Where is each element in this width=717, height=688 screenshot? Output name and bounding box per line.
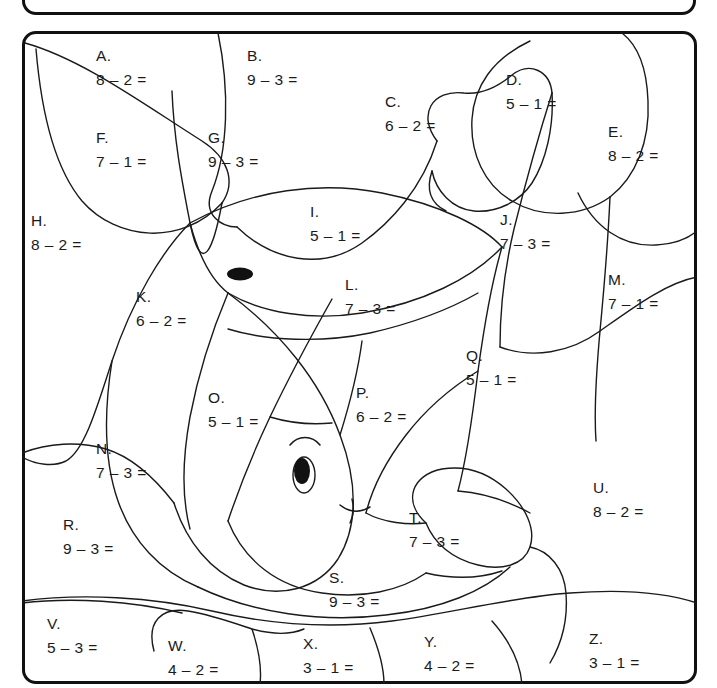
eye-pupil bbox=[294, 458, 310, 484]
line-o-outline bbox=[174, 293, 353, 591]
line-k-o bbox=[184, 293, 228, 529]
line-p-left bbox=[340, 341, 362, 435]
line-y-z bbox=[492, 621, 522, 684]
instruction-box bbox=[22, 0, 696, 15]
line-q-bottom bbox=[366, 513, 426, 524]
line-c-top bbox=[428, 69, 552, 141]
worksheet-page: A.8 – 2 =B.9 – 3 =C.6 – 2 =D.5 – 1 =E.8 … bbox=[0, 0, 717, 688]
line-i-top bbox=[190, 188, 502, 247]
line-body-bottom2 bbox=[228, 521, 426, 595]
line-t-right bbox=[530, 547, 566, 663]
line-x-y bbox=[370, 628, 384, 684]
line-v-w bbox=[152, 610, 304, 651]
line-i-bottom bbox=[228, 247, 502, 316]
line-t-outline bbox=[413, 468, 532, 567]
line-b-bottom bbox=[237, 141, 437, 259]
mouth bbox=[340, 505, 370, 511]
fish-line-art bbox=[22, 31, 697, 684]
eyebrow bbox=[290, 438, 320, 446]
line-l-bottom bbox=[228, 293, 478, 339]
line-ab-divider bbox=[209, 33, 237, 227]
line-fin-upper bbox=[270, 417, 332, 424]
line-d-right bbox=[610, 33, 648, 197]
line-body-bottom bbox=[198, 567, 510, 618]
dorsal-spot bbox=[227, 268, 253, 281]
line-l-left bbox=[228, 299, 332, 521]
line-a-arc bbox=[36, 49, 222, 233]
line-w-x bbox=[252, 629, 261, 684]
line-bottom-band bbox=[22, 591, 697, 625]
line-a-bottom bbox=[25, 43, 229, 203]
line-s-top bbox=[426, 571, 502, 577]
line-m-left bbox=[595, 197, 610, 441]
line-u-left bbox=[458, 491, 530, 513]
line-j-left bbox=[458, 247, 502, 491]
line-n-left bbox=[22, 444, 174, 503]
line-j-right bbox=[500, 93, 552, 347]
line-c-bottom bbox=[429, 171, 446, 211]
line-i-left bbox=[190, 223, 228, 293]
line-bottom-band2 bbox=[22, 600, 182, 613]
line-e-bottom bbox=[578, 193, 697, 245]
